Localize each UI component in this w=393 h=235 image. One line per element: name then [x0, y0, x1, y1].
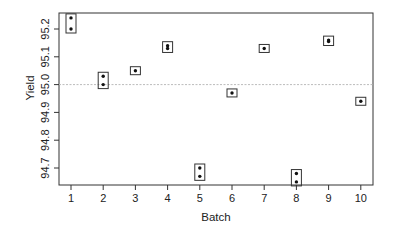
data-point: [295, 180, 298, 183]
plot-border: [59, 13, 373, 185]
x-tick-label: 4: [165, 192, 171, 204]
x-tick-label: 2: [100, 192, 106, 204]
y-tick-label: 95.1: [39, 46, 51, 67]
data-point: [102, 83, 105, 86]
y-tick-label: 94.7: [39, 157, 51, 178]
x-tick-label: 1: [68, 192, 74, 204]
data-point: [230, 91, 233, 94]
x-axis: 12345678910: [68, 185, 367, 204]
y-tick-label: 94.8: [39, 129, 51, 150]
plot-frame: [59, 13, 373, 185]
yield-by-batch-chart: 94.794.894.995.095.195.2 12345678910 Bat…: [0, 0, 393, 235]
y-tick-label: 95.0: [39, 74, 51, 95]
data-point: [295, 172, 298, 175]
x-tick-label: 9: [326, 192, 332, 204]
x-tick-label: 3: [132, 192, 138, 204]
x-tick-label: 5: [197, 192, 203, 204]
data-point: [198, 175, 201, 178]
data-point: [69, 16, 72, 19]
x-tick-label: 6: [229, 192, 235, 204]
data-point: [327, 40, 330, 43]
x-axis-title: Batch: [201, 211, 230, 223]
x-tick-label: 10: [355, 192, 367, 204]
data-points: [66, 14, 366, 186]
data-point: [263, 47, 266, 50]
x-tick-label: 8: [293, 192, 299, 204]
y-tick-label: 94.9: [39, 102, 51, 123]
y-tick-label: 95.2: [39, 18, 51, 39]
x-tick-label: 7: [261, 192, 267, 204]
data-point: [102, 75, 105, 78]
data-point: [166, 47, 169, 50]
y-axis: 94.794.894.995.095.195.2: [39, 18, 59, 178]
data-point: [359, 100, 362, 103]
y-axis-title: Yield: [24, 75, 36, 100]
data-point: [198, 166, 201, 169]
data-point: [134, 69, 137, 72]
data-point: [69, 27, 72, 30]
